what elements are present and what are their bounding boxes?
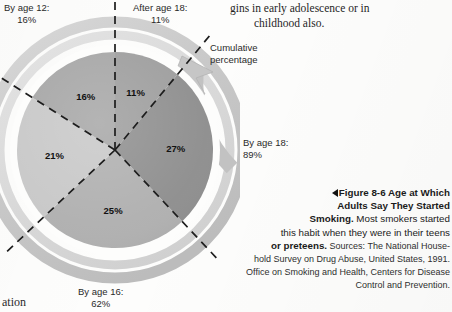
body-line-2: childhood also. <box>230 16 450 31</box>
caption-text-part1: Most smokers started <box>354 213 450 224</box>
stray-column-text: ation <box>2 295 26 310</box>
caption-line-3: Smoking. Most smokers started <box>228 212 450 225</box>
callout-by-age-18: By age 18: 89% <box>243 137 288 160</box>
callout-by-age-12-line1: By age 12: <box>4 2 49 14</box>
caption-sources-line1: Sources: The National House- <box>327 241 450 251</box>
callout-by-age-16-line1: By age 16: <box>78 286 123 298</box>
callout-after-age-18-line2: 11% <box>133 14 187 26</box>
body-line-1: gins in early adolescence or in <box>230 2 370 14</box>
slice-label-11: 11% <box>126 87 145 98</box>
slice-label-25: 25% <box>104 205 124 216</box>
caption-sources-line2: hold Survey on Drug Abuse, United States… <box>228 253 450 266</box>
callout-by-age-18-line2: 89% <box>243 149 288 161</box>
caption-title-line2: Adults Say They Started <box>228 199 450 212</box>
callout-by-age-18-line1: By age 18: <box>243 137 288 149</box>
caption-line-1: Figure 8-6 Age at Which <box>228 186 450 199</box>
caption-triangle-icon <box>332 189 338 197</box>
annotation-cumulative-percentage: Cumulative percentage <box>210 42 258 65</box>
callout-after-age-18: After age 18: 11% <box>133 2 187 25</box>
callout-by-age-16: By age 16: 62% <box>78 286 123 309</box>
annotation-cumulative-line2: percentage <box>210 54 258 66</box>
pie-chart-figure: 11%27%25%21%16% By age 12: 16% After age… <box>0 0 240 312</box>
callout-after-age-18-line1: After age 18: <box>133 2 187 14</box>
slice-label-16: 16% <box>76 91 96 102</box>
caption-text-bold-preteens: or preteens. <box>271 240 327 251</box>
figure-caption: Figure 8-6 Age at Which Adults Say They … <box>228 186 450 293</box>
callout-by-age-12: By age 12: 16% <box>4 2 49 25</box>
pie-chart-svg: 11%27%25%21%16% <box>0 0 240 312</box>
caption-title-line1: Figure 8-6 Age at Which <box>339 187 450 198</box>
callout-by-age-16-line2: 62% <box>78 298 123 310</box>
slice-label-21: 21% <box>45 150 65 161</box>
caption-title-line3: Smoking. <box>310 213 354 224</box>
body-paragraph: gins in early adolescence or in childhoo… <box>230 1 450 30</box>
callout-by-age-12-line2: 16% <box>4 14 49 26</box>
caption-text-line2: this habit when they were in their teens <box>228 226 450 239</box>
annotation-cumulative-line1: Cumulative <box>210 42 258 54</box>
caption-sources-line3: Office on Smoking and Health, Centers fo… <box>228 266 450 279</box>
slice-label-27: 27% <box>166 143 186 154</box>
caption-line-5: or preteens. Sources: The National House… <box>228 239 450 253</box>
caption-sources-line4: Control and Prevention. <box>228 279 450 292</box>
